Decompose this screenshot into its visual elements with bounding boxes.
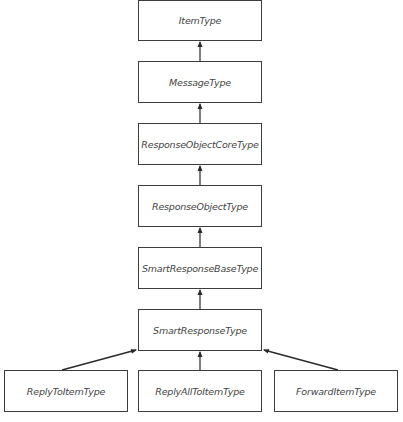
node-response-object-type: ResponseObjectType — [138, 185, 262, 227]
node-response-object-core-type: ResponseObjectCoreType — [138, 123, 262, 165]
node-label: SmartResponseType — [153, 325, 247, 336]
node-label: ResponseObjectType — [152, 201, 248, 212]
node-label: MessageType — [169, 77, 231, 88]
arrow-forward-to-smartresponse — [264, 350, 338, 370]
node-label: ForwardItemType — [296, 386, 376, 397]
node-label: ReplyToItemType — [27, 386, 105, 397]
node-smart-response-base-type: SmartResponseBaseType — [138, 247, 262, 289]
node-reply-to-item-type: ReplyToItemType — [4, 370, 128, 412]
arrow-replyto-to-smartresponse — [62, 350, 136, 370]
node-item-type: ItemType — [138, 0, 262, 41]
node-reply-all-to-item-type: ReplyAllToItemType — [138, 370, 262, 412]
node-label: ResponseObjectCoreType — [141, 139, 258, 150]
node-label: ReplyAllToItemType — [155, 386, 244, 397]
node-label: ItemType — [179, 15, 222, 26]
node-smart-response-type: SmartResponseType — [138, 309, 262, 351]
node-label: SmartResponseBaseType — [142, 263, 258, 274]
node-message-type: MessageType — [138, 61, 262, 103]
node-forward-item-type: ForwardItemType — [274, 370, 398, 412]
